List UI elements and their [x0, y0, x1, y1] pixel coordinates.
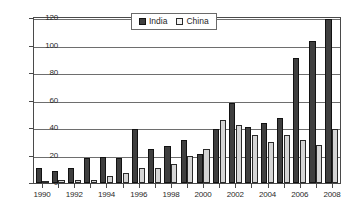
- x-tick: [106, 184, 107, 188]
- bar-india-1994: [100, 157, 106, 183]
- legend-label-china: China: [186, 17, 208, 26]
- bar-china-2003: [252, 135, 258, 183]
- x-tick: [187, 184, 188, 188]
- x-tick: [155, 184, 156, 188]
- x-tick: [139, 184, 140, 188]
- bar-india-2007: [309, 41, 315, 183]
- bar-china-1999: [187, 156, 193, 184]
- bar-china-2007: [316, 145, 322, 184]
- x-tick-label: 2004: [253, 190, 283, 199]
- x-tick: [251, 184, 252, 188]
- legend-item-india: India: [139, 17, 167, 26]
- x-tick: [90, 184, 91, 188]
- bar-india-1996: [132, 129, 138, 183]
- bar-india-2005: [277, 118, 283, 183]
- bar-china-1994: [107, 176, 113, 183]
- bar-india-2001: [213, 129, 219, 183]
- light-square-icon: [176, 18, 183, 25]
- x-tick: [203, 184, 204, 188]
- x-tick: [268, 184, 269, 188]
- bar-india-1993: [84, 158, 90, 183]
- bar-china-1998: [171, 164, 177, 183]
- bar-china-2001: [220, 120, 226, 183]
- bar-india-2004: [261, 123, 267, 184]
- x-tick: [171, 184, 172, 188]
- bar-india-1991: [52, 171, 58, 183]
- bar-chart: 020406080100120 199019921994199619982000…: [0, 0, 354, 209]
- bar-china-1991: [58, 180, 64, 183]
- x-tick-label: 2000: [188, 190, 218, 199]
- bar-china-1993: [91, 180, 97, 183]
- x-tick-label: 2008: [317, 190, 347, 199]
- bar-india-1995: [116, 158, 122, 183]
- legend-label-india: India: [149, 17, 167, 26]
- x-tick: [74, 184, 75, 188]
- x-tick-label: 1998: [156, 190, 186, 199]
- bars-layer: [34, 18, 340, 183]
- bar-india-1998: [164, 146, 170, 183]
- bar-china-2008: [332, 129, 338, 183]
- legend-item-china: China: [176, 17, 208, 26]
- bar-china-1997: [155, 168, 161, 183]
- bar-india-1990: [36, 168, 42, 183]
- bar-china-2006: [300, 140, 306, 183]
- bar-india-2003: [245, 127, 251, 183]
- x-tick: [58, 184, 59, 188]
- bar-china-1995: [123, 173, 129, 183]
- bar-china-1990: [42, 181, 48, 183]
- x-tick-label: 1994: [91, 190, 121, 199]
- bar-china-1996: [139, 168, 145, 183]
- bar-china-2000: [203, 149, 209, 183]
- x-tick: [219, 184, 220, 188]
- bar-china-2005: [284, 135, 290, 183]
- bar-india-1999: [181, 140, 187, 183]
- bar-china-2004: [268, 142, 274, 183]
- bar-india-2006: [293, 58, 299, 183]
- x-tick: [42, 184, 43, 188]
- bar-india-1997: [148, 149, 154, 183]
- x-tick-label: 1992: [59, 190, 89, 199]
- bar-india-2008: [325, 19, 331, 183]
- bar-india-2000: [197, 154, 203, 183]
- x-tick: [300, 184, 301, 188]
- x-tick-label: 1990: [27, 190, 57, 199]
- bar-china-1992: [75, 180, 81, 183]
- dark-square-icon: [139, 18, 146, 25]
- x-tick-label: 2006: [285, 190, 315, 199]
- bar-india-2002: [229, 103, 235, 183]
- chart-legend: India China: [131, 13, 217, 30]
- x-tick-label: 1996: [124, 190, 154, 199]
- bar-india-1992: [68, 168, 74, 183]
- x-tick-label: 2002: [220, 190, 250, 199]
- x-tick: [284, 184, 285, 188]
- bar-china-2002: [236, 125, 242, 183]
- x-tick: [123, 184, 124, 188]
- x-tick: [235, 184, 236, 188]
- x-tick: [332, 184, 333, 188]
- x-tick: [316, 184, 317, 188]
